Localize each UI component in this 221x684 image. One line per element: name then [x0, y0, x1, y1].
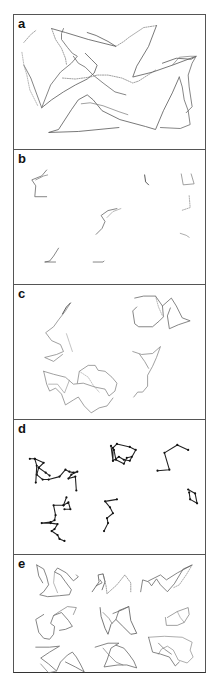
trajectory-line	[156, 296, 163, 316]
trajectory-point	[69, 508, 71, 510]
trajectory-point	[110, 445, 112, 447]
trajectory-point	[118, 456, 120, 458]
trajectory-line	[162, 298, 190, 329]
trajectory-point	[129, 460, 131, 462]
trajectory-point	[106, 517, 108, 519]
trajectory-line	[181, 196, 190, 211]
trajectory-line	[62, 303, 70, 314]
trajectory-line	[42, 53, 97, 107]
trajectory-line	[165, 608, 189, 626]
trajectory-line	[73, 56, 125, 95]
trajectory-line	[66, 334, 72, 352]
trajectory-line	[35, 459, 37, 483]
trajectory-point	[62, 504, 64, 506]
trajectory-paths-b	[14, 150, 205, 284]
trajectory-point	[188, 491, 190, 493]
trajectory-point	[56, 523, 58, 525]
trajectory-point	[36, 465, 38, 467]
trajectory-line	[79, 371, 99, 392]
trajectory-line	[96, 209, 117, 235]
trajectory-point	[176, 444, 178, 446]
trajectory-point	[112, 512, 114, 514]
panel-a: a	[14, 15, 205, 149]
trajectory-line	[95, 643, 137, 668]
trajectory-point	[65, 496, 67, 498]
trajectory-line	[177, 612, 184, 623]
trajectory-point	[126, 457, 128, 459]
trajectory-point	[116, 443, 118, 445]
trajectory-point	[112, 447, 114, 449]
trajectory-line	[49, 77, 180, 132]
trajectory-point	[113, 449, 115, 451]
panel-d: d	[14, 419, 205, 554]
trajectory-point	[123, 463, 125, 465]
trajectory-point	[67, 501, 69, 503]
trajectory-point	[58, 538, 60, 540]
trajectory-line	[158, 643, 171, 654]
trajectory-line	[140, 354, 149, 368]
trajectory-paths-d	[14, 420, 205, 554]
trajectory-point	[41, 522, 43, 524]
trajectory-line	[181, 174, 194, 185]
trajectory-point	[68, 471, 70, 473]
trajectory-line	[42, 497, 67, 541]
trajectory-point	[58, 476, 60, 478]
trajectory-line	[103, 613, 112, 624]
trajectory-point	[64, 469, 66, 471]
panel-b: b	[14, 149, 205, 284]
trajectory-point	[123, 459, 125, 461]
trajectory-point	[63, 508, 65, 510]
trajectory-line	[133, 296, 164, 327]
trajectory-line	[52, 29, 67, 65]
trajectory-line	[103, 574, 131, 594]
trajectory-line	[45, 248, 59, 262]
trajectory-line	[157, 445, 188, 471]
trajectory-point	[51, 530, 53, 532]
trajectory-point	[129, 446, 131, 448]
trajectory-line	[24, 31, 36, 43]
trajectory-paths-c	[14, 285, 205, 419]
trajectory-point	[103, 530, 105, 532]
trajectory-point	[109, 506, 111, 508]
trajectory-line	[180, 233, 189, 237]
trajectory-point	[53, 519, 55, 521]
trajectory-point	[70, 474, 72, 476]
trajectory-line	[62, 70, 155, 83]
trajectory-point	[52, 504, 54, 506]
trajectory-paths-e	[14, 555, 205, 674]
trajectory-line	[32, 170, 47, 197]
trajectory-point	[43, 462, 45, 464]
trajectory-point	[42, 478, 44, 480]
trajectory-point	[115, 459, 117, 461]
trajectory-point	[53, 528, 55, 530]
trajectory-point	[131, 456, 133, 458]
trajectory-point	[135, 449, 137, 451]
trajectory-point	[194, 492, 196, 494]
trajectory-line	[116, 26, 157, 47]
trajectory-point	[63, 540, 65, 542]
trajectory-line	[104, 499, 117, 531]
trajectory-line	[36, 613, 73, 640]
trajectory-point	[168, 469, 170, 471]
trajectory-point	[196, 502, 198, 504]
trajectory-point	[116, 498, 118, 500]
trajectory-line	[141, 565, 192, 592]
trajectory-line	[149, 637, 180, 666]
trajectory-point	[107, 522, 109, 524]
trajectory-point	[29, 458, 31, 460]
trajectory-line	[45, 303, 71, 361]
trajectory-line	[92, 574, 105, 592]
panel-e: e	[14, 554, 205, 674]
trajectory-point	[74, 476, 76, 478]
trajectory-point	[72, 472, 74, 474]
trajectory-line	[22, 52, 38, 105]
trajectory-point	[75, 489, 77, 491]
trajectory-point	[49, 475, 51, 477]
trajectory-line	[54, 572, 58, 593]
trajectory-line	[81, 103, 128, 115]
trajectory-point	[50, 522, 52, 524]
trajectory-point	[67, 477, 69, 479]
trajectory-line	[160, 77, 190, 128]
trajectory-line	[100, 607, 137, 635]
trajectory-point	[48, 478, 50, 480]
